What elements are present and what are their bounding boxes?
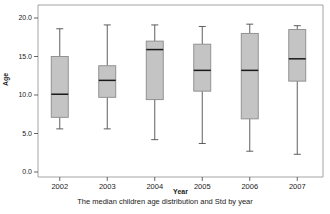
y-axis-tick-label: 0.0 (6, 168, 32, 175)
box-iqr (241, 33, 258, 118)
y-axis-tick-label: 20.0 (6, 14, 32, 21)
box-plot-item (241, 24, 258, 151)
x-axis-title: Year (151, 188, 211, 195)
y-axis-tick-label: 5.0 (6, 130, 32, 137)
box-iqr (99, 66, 116, 98)
y-axis-title: Age (2, 73, 9, 86)
plot-frame (38, 5, 323, 177)
box-plot-item (51, 29, 68, 129)
figure-caption: The median children age distribution and… (0, 197, 330, 206)
boxplot-figure: Age 0.05.010.015.020.0 20022003200420052… (0, 0, 330, 214)
x-axis-tick-label: 2002 (43, 182, 77, 191)
box-plot-item (146, 25, 163, 140)
box-iqr (289, 30, 306, 82)
y-axis-tick-label: 10.0 (6, 91, 32, 98)
y-axis-tick-label: 15.0 (6, 53, 32, 60)
x-axis-tick-label: 2003 (90, 182, 124, 191)
x-axis-tick-label: 2006 (233, 182, 267, 191)
box-plot-item (99, 25, 116, 129)
box-plot-item (289, 26, 306, 155)
box-iqr (194, 44, 211, 91)
box-iqr (51, 57, 68, 118)
x-axis-tick-label: 2007 (280, 182, 314, 191)
box-plot-item (194, 26, 211, 143)
